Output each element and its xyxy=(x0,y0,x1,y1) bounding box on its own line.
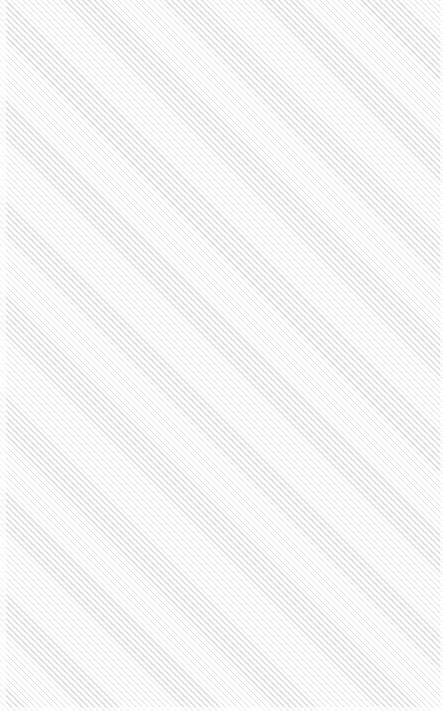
empty-placeholder-canvas xyxy=(0,0,443,711)
left-edge-margin xyxy=(0,0,6,711)
bottom-edge-margin xyxy=(0,707,443,711)
